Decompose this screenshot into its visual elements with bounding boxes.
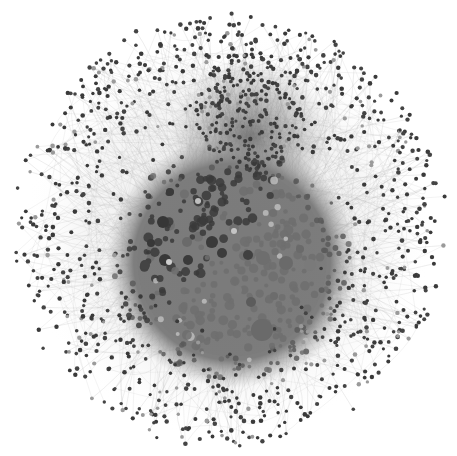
graph-node-large [231,228,237,234]
network-graph [0,0,457,456]
network-graph-canvas [0,0,457,456]
graph-node-large [256,251,270,265]
graph-node-large [251,319,273,341]
graph-node-large [217,248,227,258]
graph-node-large [296,245,304,253]
graph-node-large [157,216,169,228]
graph-node-large [195,198,201,204]
graph-node-large [246,297,256,307]
graph-node-large [182,237,192,247]
graph-node-large [206,236,218,248]
graph-node-large [279,256,293,270]
graph-node-large [304,259,316,271]
graph-node-large [166,259,172,265]
graph-node-large [140,260,150,270]
graph-node-large [147,239,155,247]
graph-node-large [243,250,253,260]
graph-node-large [166,188,174,196]
graph-node-large [183,255,193,265]
graph-node-large [234,286,242,294]
graph-node-large [270,292,278,300]
